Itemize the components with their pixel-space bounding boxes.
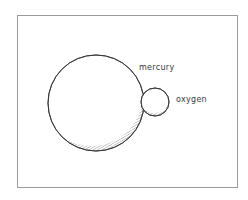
mercury-atom — [42, 48, 144, 151]
molecule-diagram — [0, 0, 248, 200]
mercury-label: mercury — [139, 63, 174, 72]
oxygen-label: oxygen — [176, 95, 207, 104]
